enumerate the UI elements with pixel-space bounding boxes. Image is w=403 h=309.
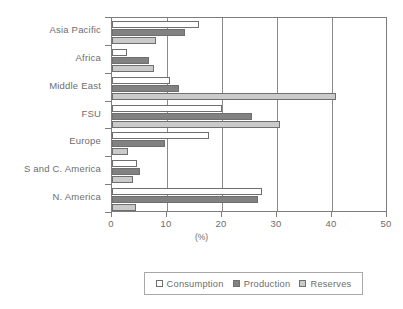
bar-group (112, 74, 386, 102)
bar (112, 21, 199, 28)
legend-label: Production (244, 279, 290, 289)
legend-swatch-icon (156, 280, 163, 287)
x-axis-tick (166, 212, 167, 217)
bar-group (112, 102, 386, 130)
bar (112, 196, 258, 203)
x-axis-tick-label: 0 (96, 218, 126, 229)
plot-area (111, 17, 387, 212)
bar (112, 188, 262, 195)
x-axis-tick (221, 212, 222, 217)
legend-swatch-icon (299, 280, 306, 287)
y-axis-tick (105, 128, 111, 129)
y-axis-label: N. America (53, 191, 101, 202)
bar (112, 37, 156, 44)
legend-label: Consumption (167, 279, 224, 289)
legend-label: Reserves (310, 279, 351, 289)
bar (112, 49, 127, 56)
bar (112, 85, 179, 92)
x-axis-tick-label: 50 (371, 218, 401, 229)
y-axis-tick (105, 45, 111, 46)
x-axis-tick (276, 212, 277, 217)
x-axis-tick-label: 40 (316, 218, 346, 229)
bar (112, 140, 165, 147)
bar-rows (112, 18, 386, 211)
bar (112, 93, 336, 100)
x-axis-tick-label: 10 (151, 218, 181, 229)
y-axis-tick (105, 184, 111, 185)
bar (112, 113, 252, 120)
y-axis-label: S and C. America (24, 163, 101, 174)
bar-group (112, 18, 386, 46)
x-axis-tick (111, 212, 112, 217)
bar (112, 176, 133, 183)
bar (112, 121, 280, 128)
y-axis-tick (105, 156, 111, 157)
bar-group (112, 157, 386, 185)
legend-item[interactable]: Consumption (156, 279, 224, 289)
bar-group (112, 185, 386, 213)
bar (112, 204, 136, 211)
x-axis-tick-label: 30 (261, 218, 291, 229)
bar (112, 148, 128, 155)
x-axis-tick-label: 20 (206, 218, 236, 229)
legend-swatch-icon (233, 280, 240, 287)
y-axis-tick (105, 73, 111, 74)
bar (112, 77, 170, 84)
bar-group (112, 129, 386, 157)
bar (112, 29, 185, 36)
bar (112, 168, 140, 175)
y-axis-label: Africa (76, 52, 101, 63)
legend-item[interactable]: Production (233, 279, 290, 289)
bar-group (112, 46, 386, 74)
y-axis-tick (105, 17, 111, 18)
y-axis-label: Europe (69, 135, 101, 146)
y-axis-label: Asia Pacific (49, 24, 101, 35)
y-axis-tick (105, 101, 111, 102)
y-axis-label: FSU (81, 108, 101, 119)
bar (112, 65, 154, 72)
bar (112, 160, 137, 167)
x-axis-tick (386, 212, 387, 217)
x-axis-title: (%) (0, 232, 403, 242)
y-axis-label: Middle East (49, 80, 101, 91)
bar-chart: Asia PacificAfricaMiddle EastFSUEuropeS … (0, 0, 403, 309)
bar (112, 57, 149, 64)
x-axis-tick (331, 212, 332, 217)
bar (112, 105, 222, 112)
legend-item[interactable]: Reserves (299, 279, 351, 289)
bar (112, 132, 209, 139)
legend: ConsumptionProductionReserves (144, 272, 363, 295)
